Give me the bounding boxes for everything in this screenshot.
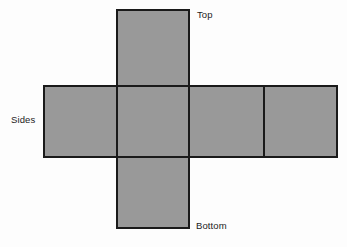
horizontal-band-fill: [44, 86, 337, 157]
label-top: Top: [197, 9, 213, 20]
cube-net-figure: [0, 0, 347, 247]
label-bottom: Bottom: [196, 220, 227, 231]
label-sides: Sides: [11, 114, 35, 125]
